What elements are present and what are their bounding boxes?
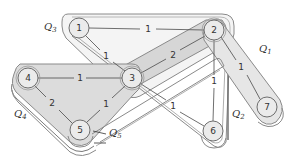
node-5: 5 — [70, 120, 90, 140]
node-label-3: 3 — [129, 73, 135, 83]
node-label-5: 5 — [77, 125, 83, 135]
edge-weight-3-5: 1 — [103, 99, 109, 109]
hyperedge-label-q5: Q5 — [109, 127, 122, 140]
node-label-2: 2 — [211, 25, 217, 35]
edge-weight-2-6: 1 — [211, 76, 217, 86]
node-4: 4 — [16, 66, 40, 90]
hypergraph-diagram: 1 1 2 1 1 1 1 1 2 1 2 3 4 5 — [0, 0, 292, 164]
hyperedge-bands — [12, 14, 284, 156]
edge-weight-2-7: 1 — [238, 62, 244, 72]
node-1: 1 — [69, 18, 89, 38]
edge-weight-1-3: 1 — [103, 51, 109, 61]
node-label-1: 1 — [76, 23, 82, 33]
edge-weight-3-6: 1 — [170, 101, 176, 111]
node-label-6: 6 — [210, 126, 216, 136]
node-2: 2 — [202, 18, 226, 42]
hyperedge-label-q4: Q4 — [14, 108, 27, 121]
node-label-7: 7 — [264, 102, 270, 112]
edge-weight-3-4: 1 — [77, 73, 83, 83]
edge-weight-1-2: 1 — [145, 24, 151, 34]
edge-2-6b — [213, 88, 214, 121]
node-label-4: 4 — [25, 73, 31, 83]
edge-weight-2-3: 2 — [170, 50, 176, 60]
node-6: 6 — [203, 121, 223, 141]
hyperedge-label-q2: Q2 — [232, 108, 245, 121]
hyperedge-label-q1: Q1 — [259, 43, 272, 56]
node-3: 3 — [120, 66, 144, 90]
edge-3-6b — [180, 112, 204, 126]
edge-weight-4-5: 2 — [49, 98, 55, 108]
hyperedge-label-q3: Q3 — [44, 21, 57, 34]
node-7: 7 — [257, 97, 277, 117]
